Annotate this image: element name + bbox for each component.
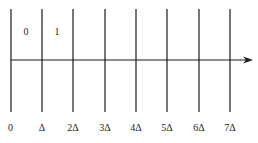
tick-labels: 0Δ2Δ3Δ4Δ5Δ6Δ7Δ xyxy=(8,122,236,133)
cell-label: 1 xyxy=(55,26,60,37)
timeline-diagram: 01 0Δ2Δ3Δ4Δ5Δ6Δ7Δ xyxy=(0,0,258,143)
tick-label: Δ xyxy=(39,122,46,133)
time-axis xyxy=(11,57,253,64)
tick-label: 5Δ xyxy=(161,122,173,133)
tick-label: 6Δ xyxy=(193,122,205,133)
tick-label: 7Δ xyxy=(224,122,236,133)
tick-label: 2Δ xyxy=(67,122,79,133)
tick-label: 0 xyxy=(8,122,13,133)
tick-label: 3Δ xyxy=(99,122,111,133)
tick-label: 4Δ xyxy=(130,122,142,133)
cell-label: 0 xyxy=(24,26,29,37)
